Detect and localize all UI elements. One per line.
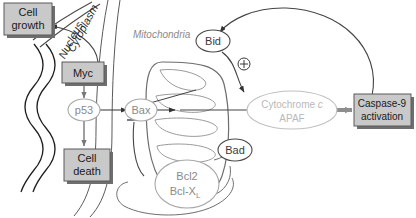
cytochrome-label-italic-c: c — [318, 99, 323, 110]
bax-label: Bax — [132, 104, 151, 116]
node-bcl2-bclxl[interactable]: Bcl2 Bcl-XL — [155, 160, 219, 208]
cell-growth-label-line1: Cell — [19, 6, 38, 18]
bid-label: Bid — [205, 35, 221, 47]
node-bad[interactable]: Bad — [218, 139, 252, 161]
bclxl-label-subscript: L — [196, 191, 201, 200]
cell-death-label-line1: Cell — [78, 152, 97, 164]
caspase9-label-line1: Caspase-9 — [358, 98, 407, 109]
cytochrome-label-line1: Cytochrome c — [261, 99, 323, 110]
plus-circle-icon — [238, 58, 250, 70]
node-p53[interactable]: p53 — [68, 99, 100, 121]
apoptosis-pathway-diagram: Cytoplasm Nucleus Mitochondria Cell grow… — [0, 0, 416, 218]
node-cytochrome-c-apaf[interactable]: Cytochrome c APAF — [247, 91, 337, 129]
node-cell-growth[interactable]: Cell growth — [4, 3, 55, 38]
p53-label: p53 — [75, 104, 93, 116]
bcl2-label-line1: Bcl2 — [176, 170, 197, 182]
cell-death-label-line2: death — [73, 165, 101, 177]
node-cell-death[interactable]: Cell death — [64, 149, 113, 184]
myc-label: Myc — [73, 67, 94, 79]
dna-helix — [21, 44, 55, 192]
diagram-canvas: Cytoplasm Nucleus Mitochondria Cell grow… — [0, 0, 416, 218]
node-bid[interactable]: Bid — [196, 30, 230, 52]
node-myc[interactable]: Myc — [62, 62, 107, 86]
node-caspase9-activation[interactable]: Caspase-9 activation — [354, 94, 414, 129]
arrow-bid-to-cytochrome — [222, 52, 244, 92]
cell-growth-label-line2: growth — [11, 19, 44, 31]
bad-label: Bad — [225, 144, 245, 156]
cytochrome-label-main: Cytochrome — [261, 99, 318, 110]
mitochondria-label: Mitochondria — [133, 29, 191, 40]
caspase9-label-line2: activation — [361, 111, 403, 122]
arrow-caspase9-feedback-to-bid — [220, 8, 373, 96]
apaf-label: APAF — [279, 113, 304, 124]
bclxl-label-main: Bcl-X — [170, 185, 197, 197]
line-bcl2-to-bax-inhibition — [133, 122, 144, 176]
node-bax[interactable]: Bax — [125, 99, 157, 121]
